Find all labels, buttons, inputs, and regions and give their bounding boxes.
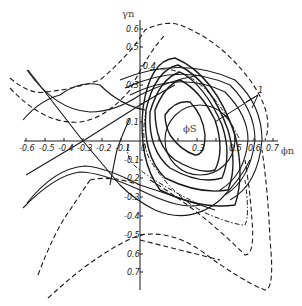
x-tick-label: 0.7 bbox=[266, 144, 280, 153]
y-tick-label: 0.5 bbox=[126, 43, 139, 52]
phase-portrait-diagram: -0.6 -0.5 -0.4 -0.3 -0.2 -0.1 0 0.3 0.5 … bbox=[0, 0, 302, 306]
y-tick-labels: γn 0.6 0.5 0.4 0.3 0.1 -0.1 -0.2 -0.3 -0… bbox=[122, 8, 156, 277]
x-tick-label: -0.2 bbox=[96, 144, 112, 153]
circular-orbits bbox=[120, 68, 262, 211]
y-axis-label: γn bbox=[122, 8, 135, 19]
y-tick-label: 0.7 bbox=[127, 268, 141, 277]
x-tick-label: -0.5 bbox=[39, 144, 55, 153]
y-tick-label: 0.6 bbox=[127, 250, 140, 259]
x-axis-label: ϕn bbox=[281, 145, 295, 156]
y-tick-label: -0.3 bbox=[124, 193, 140, 202]
x-tick-label: -0.3 bbox=[77, 144, 93, 153]
y-tick-label: 0.6 bbox=[126, 25, 139, 34]
curve-marker-label: 1 bbox=[258, 86, 263, 95]
x-tick-label: -0.6 bbox=[19, 144, 35, 153]
phi-s-label: ϕS bbox=[183, 123, 197, 134]
y-tick-label: -0.5 bbox=[124, 231, 140, 240]
y-tick-label: -0.4 bbox=[124, 212, 140, 221]
y-tick-label: -0.1 bbox=[124, 156, 140, 165]
